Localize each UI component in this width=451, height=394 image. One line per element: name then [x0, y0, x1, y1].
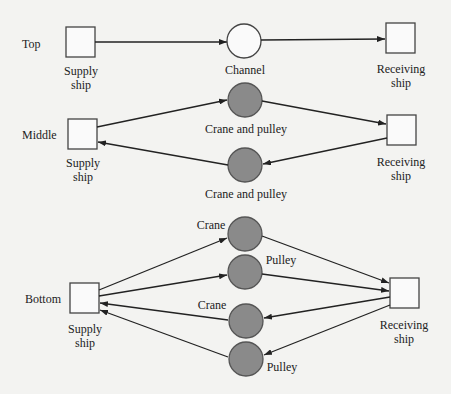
row-label-middle: Middle [22, 128, 57, 142]
middle-supply-ship-box [68, 119, 97, 149]
top-receiving-ship-label: Receiving ship [370, 62, 432, 90]
bottom-crane-label-1: Crane [196, 218, 226, 232]
middle-arrow-receiving-crane2 [263, 138, 387, 164]
middle-arrow-crane1-receiving [262, 101, 386, 124]
middle-crane-pulley-node-2 [228, 148, 262, 182]
bottom-arrow-receiving-pulley2 [264, 305, 390, 355]
bottom-supply-ship-label: Supply ship [64, 322, 106, 350]
middle-crane-pulley-node-1 [228, 83, 262, 117]
middle-crane-pulley-label-2: Crane and pulley [200, 187, 292, 201]
bottom-arrow-supply-pulley1 [99, 275, 227, 296]
row-label-bottom: Bottom [25, 292, 61, 306]
bottom-pulley-node-1 [228, 255, 262, 289]
bottom-receiving-ship-box [390, 278, 419, 308]
middle-supply-ship-label: Supply ship [62, 156, 104, 184]
top-supply-ship-box [66, 27, 95, 57]
bottom-crane-node-2 [229, 304, 263, 338]
row-label-top: Top [22, 37, 41, 51]
bottom-arrow-supply-crane1 [99, 238, 227, 290]
bottom-pulley-label-2: Pulley [265, 360, 299, 374]
bottom-pulley-node-2 [229, 342, 263, 376]
bottom-arrow-receiving-crane2 [264, 297, 390, 318]
bottom-crane-node-1 [228, 217, 262, 251]
middle-receiving-ship-box [387, 115, 416, 145]
top-arrow-channel-receiving [261, 39, 385, 40]
bottom-crane-label-2: Crane [197, 298, 227, 312]
middle-receiving-ship-label: Receiving ship [370, 155, 432, 183]
middle-crane-pulley-label-1: Crane and pulley [200, 122, 292, 136]
top-channel-label: Channel [214, 63, 276, 77]
top-receiving-ship-box [386, 23, 415, 53]
middle-arrow-crane2-supply [98, 142, 228, 165]
top-supply-ship-label: Supply ship [60, 64, 102, 92]
bottom-supply-ship-box [70, 283, 99, 313]
bottom-pulley-label-1: Pulley [264, 253, 298, 267]
bottom-receiving-ship-label: Receiving ship [373, 318, 435, 346]
top-channel-node [227, 24, 261, 58]
